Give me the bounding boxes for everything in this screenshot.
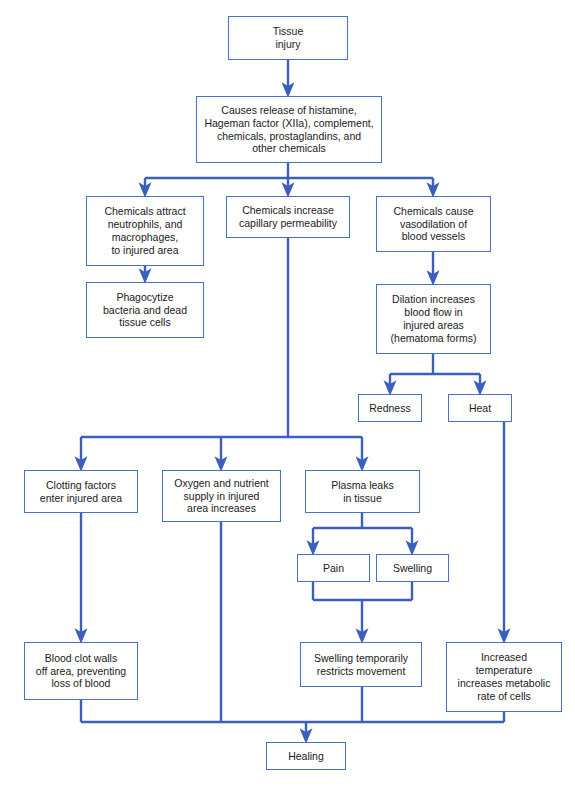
node-label: Causes release of histamine, Hageman fac… (204, 104, 373, 155)
node-label: Phagocytize bacteria and dead tissue cel… (103, 291, 187, 329)
node-plasma-leaks: Plasma leaks in tissue (305, 470, 420, 513)
node-label: Chemicals attract neutrophils, and macro… (104, 205, 185, 256)
node-oxygen-nutrient: Oxygen and nutrient supply in injured ar… (162, 470, 281, 522)
node-chemicals-attract: Chemicals attract neutrophils, and macro… (86, 196, 204, 266)
node-causes-release: Causes release of histamine, Hageman fac… (196, 96, 382, 163)
node-label: Blood clot walls off area, preventing lo… (36, 652, 126, 690)
node-phagocytize: Phagocytize bacteria and dead tissue cel… (86, 282, 204, 338)
node-label: Dilation increases blood flow in injured… (391, 293, 477, 344)
node-chemicals-increase: Chemicals increase capillary permeabilit… (226, 196, 350, 238)
node-label: Chemicals cause vasodilation of blood ve… (394, 205, 474, 243)
node-dilation-increases: Dilation increases blood flow in injured… (376, 284, 491, 354)
flowchart-canvas: Tissue injury Causes release of histamin… (0, 0, 575, 786)
node-blood-clot-walls: Blood clot walls off area, preventing lo… (24, 642, 138, 700)
node-label: Redness (369, 402, 410, 415)
node-swelling-restricts: Swelling temporarily restricts movement (300, 642, 422, 687)
node-label: Pain (323, 562, 344, 575)
node-heat: Heat (448, 394, 512, 422)
node-label: Clotting factors enter injured area (40, 479, 122, 505)
node-swelling: Swelling (376, 554, 449, 582)
node-label: Increased temperature increases metaboli… (458, 651, 551, 702)
node-increased-temperature: Increased temperature increases metaboli… (446, 642, 562, 712)
node-label: Swelling temporarily restricts movement (314, 652, 408, 678)
node-chemicals-vasodilation: Chemicals cause vasodilation of blood ve… (376, 196, 491, 252)
node-label: Heat (469, 402, 491, 415)
node-clotting-factors: Clotting factors enter injured area (24, 470, 138, 513)
node-label: Oxygen and nutrient supply in injured ar… (174, 477, 269, 515)
node-label: Chemicals increase capillary permeabilit… (239, 204, 337, 230)
node-label: Swelling (393, 562, 432, 575)
node-label: Plasma leaks in tissue (331, 479, 393, 505)
node-tissue-injury: Tissue injury (228, 16, 348, 60)
node-pain: Pain (297, 554, 370, 582)
node-redness: Redness (358, 394, 422, 422)
node-label: Healing (288, 750, 324, 763)
node-label: Tissue injury (273, 25, 304, 51)
node-healing: Healing (266, 742, 346, 770)
